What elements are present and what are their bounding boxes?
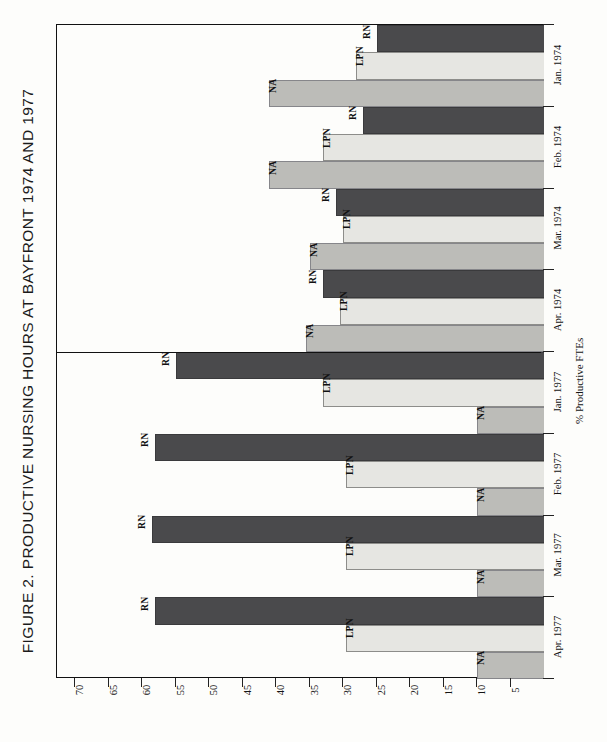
bar-label-lpn: LPN	[341, 210, 352, 230]
axis-title: % Productive FTEs	[573, 338, 585, 424]
value-tick-label-35: 35	[309, 685, 320, 696]
category-tick-3	[543, 269, 554, 270]
value-tick-label-20: 20	[409, 685, 420, 696]
value-tick-label-10: 10	[476, 685, 487, 696]
bar-rn-0: RN	[377, 25, 545, 52]
bar-label-lpn: LPN	[320, 128, 331, 148]
plot-area: RNLPNNARNLPNNARNLPNNARNLPNNARNLPNNARNLPN…	[56, 24, 543, 678]
bar-label-na: NA	[475, 569, 486, 583]
category-axis: % Productive FTEs Jan. 1974Feb. 1974Mar.…	[543, 24, 607, 678]
value-tick-label-50: 50	[208, 685, 219, 696]
bar-label-na: NA	[475, 488, 486, 502]
bar-lpn-7: LPN	[346, 625, 544, 652]
category-label-3: Apr. 1974	[552, 289, 563, 331]
bar-label-na: NA	[267, 79, 278, 93]
value-tick-label-70: 70	[74, 685, 85, 696]
category-tick-1	[543, 106, 554, 107]
category-label-2: Mar. 1974	[552, 207, 563, 251]
bar-label-rn: RN	[139, 597, 150, 611]
category-tick-7	[543, 596, 554, 597]
value-tick-label-5: 5	[510, 687, 521, 692]
category-label-4: Jan. 1977	[552, 372, 563, 413]
category-label-0: Jan. 1974	[552, 45, 563, 86]
bar-lpn-5: LPN	[346, 461, 544, 488]
value-tick-label-45: 45	[242, 685, 253, 696]
bar-label-rn: RN	[360, 24, 371, 38]
bar-lpn-2: LPN	[343, 216, 544, 243]
bar-lpn-3: LPN	[340, 298, 544, 325]
bar-na-1: NA	[269, 161, 544, 188]
bar-rn-4: RN	[176, 352, 545, 379]
value-tick-label-65: 65	[108, 685, 119, 696]
bar-label-na: NA	[307, 242, 318, 256]
bar-label-rn: RN	[136, 515, 147, 529]
bar-lpn-1: LPN	[323, 134, 544, 161]
bar-label-lpn: LPN	[344, 537, 355, 557]
value-tick-label-40: 40	[275, 685, 286, 696]
figure-title-container: FIGURE 2. PRODUCTIVE NURSING HOURS AT BA…	[0, 0, 56, 742]
bar-label-na: NA	[267, 161, 278, 175]
category-label-6: Mar. 1977	[552, 534, 563, 578]
bar-label-lpn: LPN	[320, 373, 331, 393]
value-tick-label-30: 30	[342, 685, 353, 696]
bar-label-lpn: LPN	[344, 455, 355, 475]
bar-label-lpn: LPN	[344, 618, 355, 638]
bar-label-lpn: LPN	[337, 291, 348, 311]
bar-na-3: NA	[306, 325, 544, 352]
category-tick-6	[543, 515, 554, 516]
value-tick-label-15: 15	[443, 685, 454, 696]
value-axis: 706560555045403530252015105	[56, 678, 543, 742]
bar-na-7: NA	[477, 652, 544, 679]
bar-label-lpn: LPN	[354, 46, 365, 66]
bar-label-na: NA	[304, 324, 315, 338]
bar-lpn-6: LPN	[346, 543, 544, 570]
bar-label-rn: RN	[320, 188, 331, 202]
era-divider	[57, 352, 541, 353]
bar-label-na: NA	[475, 406, 486, 420]
bar-label-rn: RN	[306, 270, 317, 284]
page-title: FIGURE 2. PRODUCTIVE NURSING HOURS AT BA…	[19, 89, 37, 654]
bar-na-5: NA	[477, 488, 544, 515]
value-tick-label-55: 55	[175, 685, 186, 696]
category-label-7: Apr. 1977	[552, 616, 563, 658]
bar-na-4: NA	[477, 407, 544, 434]
value-tick-5	[510, 678, 511, 687]
figure-canvas: FIGURE 2. PRODUCTIVE NURSING HOURS AT BA…	[0, 0, 607, 742]
bar-na-0: NA	[269, 80, 544, 107]
bar-lpn-0: LPN	[356, 52, 544, 79]
category-tick-0	[543, 24, 554, 25]
category-tick-2	[543, 188, 554, 189]
bar-rn-1: RN	[363, 107, 544, 134]
bar-label-na: NA	[475, 651, 486, 665]
category-label-1: Feb. 1974	[552, 125, 563, 167]
bar-label-rn: RN	[139, 433, 150, 447]
bar-lpn-4: LPN	[323, 379, 544, 406]
value-tick-label-25: 25	[376, 685, 387, 696]
bar-rn-2: RN	[336, 189, 544, 216]
bar-label-rn: RN	[347, 106, 358, 120]
bar-na-2: NA	[310, 243, 545, 270]
bar-label-rn: RN	[159, 351, 170, 365]
value-tick-label-60: 60	[141, 685, 152, 696]
category-label-5: Feb. 1977	[552, 452, 563, 494]
bar-na-6: NA	[477, 570, 544, 597]
bar-rn-3: RN	[323, 270, 544, 297]
category-tick-4	[543, 351, 554, 352]
category-tick-end	[543, 678, 554, 679]
category-tick-5	[543, 433, 554, 434]
